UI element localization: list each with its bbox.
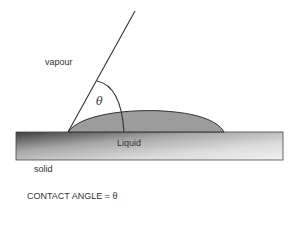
- liquid-label: Liquid: [117, 138, 141, 148]
- solid-label: solid: [34, 164, 53, 174]
- liquid-drop: [68, 111, 224, 132]
- contact-angle-caption: CONTACT ANGLE = θ: [27, 191, 117, 201]
- vapour-label: vapour: [45, 57, 73, 67]
- solid-substrate: [16, 132, 283, 160]
- theta-symbol: θ: [96, 95, 103, 108]
